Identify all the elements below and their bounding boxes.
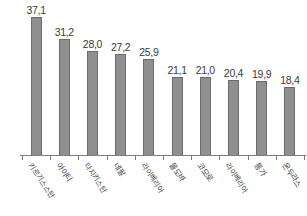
bar-value-label: 21,1 (167, 65, 186, 76)
bar-rect[interactable] (172, 77, 183, 156)
category-label: 라이베리아 (139, 161, 165, 194)
category-label: 라이베리아 (224, 161, 250, 194)
bar-value-label: 21,0 (196, 65, 215, 76)
category-slot: 온두라스 (276, 160, 304, 216)
bar-value-label: 19,9 (252, 69, 271, 80)
bar-slot: 21,1 (163, 4, 191, 156)
bar-rect[interactable] (256, 81, 267, 156)
bar-rect[interactable] (31, 17, 42, 156)
plot-area: 37,1 31,2 28,0 27,2 25,9 21,1 21,0 (22, 4, 304, 156)
category-slot: 타지키스탄 (78, 160, 106, 216)
bar-slot: 37,1 (22, 4, 50, 156)
category-label: 타지키스탄 (83, 161, 109, 194)
bar-rect[interactable] (115, 54, 126, 156)
bar-value-label: 27,2 (111, 42, 130, 53)
category-label: 아이티 (55, 161, 74, 183)
bar-rect[interactable] (87, 51, 98, 156)
bar-value-label: 25,9 (139, 47, 158, 58)
bar-slot: 31,2 (50, 4, 78, 156)
bar-chart: 37,1 31,2 28,0 27,2 25,9 21,1 21,0 (0, 0, 307, 216)
category-slot: 라이베리아 (135, 160, 163, 216)
bar-rect[interactable] (59, 39, 70, 156)
bar-slot: 25,9 (135, 4, 163, 156)
bar-rect[interactable] (284, 87, 295, 156)
category-slot: 라이베리아 (219, 160, 247, 216)
bar-slot: 27,2 (107, 4, 135, 156)
category-label: 네팔 (111, 161, 126, 177)
category-slot: 코모로 (191, 160, 219, 216)
bar-value-label: 18,4 (280, 75, 299, 86)
bar-value-label: 37,1 (26, 5, 45, 16)
bar-slot: 20,4 (219, 4, 247, 156)
category-slot: 키르기스스탄 (22, 160, 50, 216)
bar-value-label: 28,0 (83, 39, 102, 50)
bar-rect[interactable] (200, 77, 211, 156)
bar-slot: 18,4 (276, 4, 304, 156)
category-slot: 몰도바 (163, 160, 191, 216)
bar-slot: 28,0 (78, 4, 106, 156)
bar-slot: 21,0 (191, 4, 219, 156)
category-slot: 아이티 (50, 160, 78, 216)
bar-rect[interactable] (143, 59, 154, 156)
category-slot: 통가 (248, 160, 276, 216)
category-labels: 키르기스스탄 아이티 타지키스탄 네팔 라이베리아 몰도바 코모로 라이베리아 … (22, 160, 304, 216)
category-slot: 네팔 (107, 160, 135, 216)
category-label: 온두라스 (280, 161, 302, 189)
category-label: 코모로 (196, 161, 215, 183)
category-label: 몰도바 (168, 161, 187, 183)
bar-rect[interactable] (228, 80, 239, 156)
axis-tick (304, 156, 305, 160)
bar-slot: 19,9 (248, 4, 276, 156)
bar-value-label: 20,4 (224, 68, 243, 79)
category-label: 통가 (252, 161, 267, 177)
bar-value-label: 31,2 (55, 27, 74, 38)
